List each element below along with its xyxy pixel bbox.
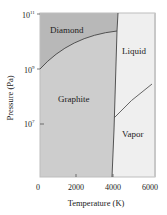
vapor-label: Vapor bbox=[122, 129, 144, 139]
graphite-label: Graphite bbox=[58, 94, 90, 104]
phase-diagram-chart: Diamond Graphite Liquid Vapor 1011 109 1… bbox=[0, 0, 167, 215]
y-tick-label-11: 1011 bbox=[22, 10, 35, 20]
y-tick-label-7: 107 bbox=[24, 119, 35, 129]
diamond-label: Diamond bbox=[50, 25, 84, 35]
x-axis-label: Temperature (K) bbox=[68, 198, 125, 208]
y-axis-label: Pressure (Pa) bbox=[5, 75, 15, 120]
liquid-vapor-region bbox=[112, 13, 155, 177]
x-tick-label-0: 0 bbox=[36, 183, 40, 192]
y-tick-label-9: 109 bbox=[24, 65, 35, 75]
x-tick-label-2000: 2000 bbox=[68, 183, 84, 192]
x-tick-label-4000: 4000 bbox=[105, 183, 121, 192]
liquid-label: Liquid bbox=[122, 46, 146, 56]
x-tick-label-6000: 6000 bbox=[142, 183, 158, 192]
